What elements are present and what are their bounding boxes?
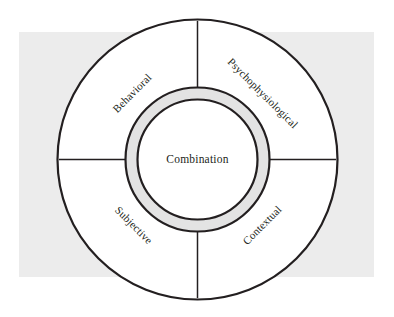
center-label-combination: Combination xyxy=(166,153,228,165)
radial-diagram-figure: Behavioral Psychophysiological Subjectiv… xyxy=(0,0,394,317)
diagram-canvas: Behavioral Psychophysiological Subjectiv… xyxy=(0,0,394,317)
